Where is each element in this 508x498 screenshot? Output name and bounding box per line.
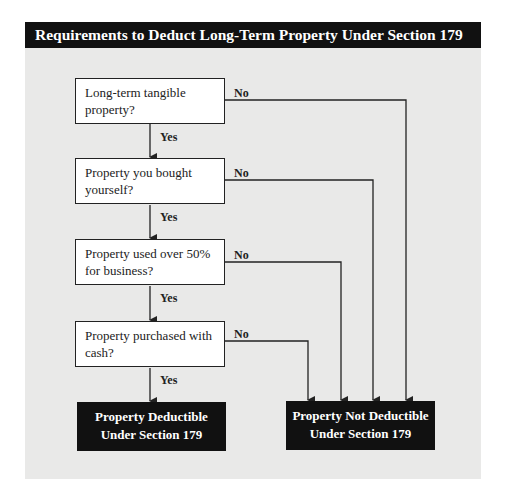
question-purchased-cash: Property purchased with cash? bbox=[75, 321, 225, 367]
no-label: No bbox=[234, 248, 249, 263]
no-label: No bbox=[234, 166, 249, 181]
yes-label: Yes bbox=[160, 373, 177, 388]
question-used-over-50: Property used over 50% for business? bbox=[75, 239, 225, 285]
no-label: No bbox=[234, 86, 249, 101]
question-long-term-tangible: Long-term tangible property? bbox=[75, 78, 225, 124]
yes-label: Yes bbox=[160, 130, 177, 145]
no-label: No bbox=[234, 327, 249, 342]
yes-label: Yes bbox=[160, 291, 177, 306]
outcome-not-deductible: Property Not Deductible Under Section 17… bbox=[286, 401, 435, 450]
question-bought-yourself: Property you bought yourself? bbox=[75, 158, 225, 204]
yes-label: Yes bbox=[160, 210, 177, 225]
outcome-deductible: Property Deductible Under Section 179 bbox=[77, 402, 226, 451]
